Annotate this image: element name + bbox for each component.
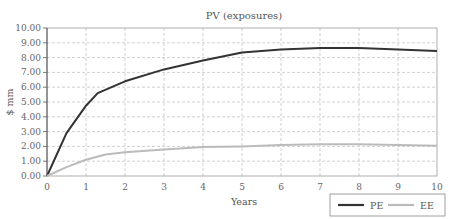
y-tick-label: 2.00 (21, 141, 41, 151)
x-tick-label: 9 (395, 182, 401, 192)
y-tick-label: 7.00 (21, 67, 41, 77)
y-tick-label: 6.00 (21, 82, 41, 92)
y-tick-label: 5.00 (21, 97, 41, 107)
y-tick-label: 8.00 (21, 53, 41, 63)
legend-label-ee: EE (420, 200, 434, 211)
x-tick-label: 6 (278, 182, 284, 192)
chart-title: PV (exposures) (206, 10, 282, 21)
series-lines (47, 48, 437, 176)
y-tick-label: 0.00 (21, 171, 41, 181)
y-tick-label: 10.00 (15, 23, 41, 33)
x-tick-label: 10 (431, 182, 443, 192)
x-tick-label: 2 (122, 182, 128, 192)
legend-label-pe: PE (370, 200, 383, 211)
x-tick-label: 7 (317, 182, 323, 192)
y-tick-label: 9.00 (21, 38, 41, 48)
x-tick-label: 3 (161, 182, 167, 192)
x-axis-ticks: 012345678910 (44, 182, 443, 192)
x-tick-label: 1 (83, 182, 89, 192)
series-line-pe (47, 48, 437, 176)
y-tick-label: 3.00 (21, 127, 41, 137)
y-axis-label: $ mm (4, 88, 15, 115)
exposure-chart: PV (exposures) 0.001.002.003.004.005.006… (0, 0, 452, 219)
x-tick-label: 8 (356, 182, 362, 192)
y-tick-label: 4.00 (21, 112, 41, 122)
x-tick-label: 0 (44, 182, 50, 192)
x-tick-label: 4 (200, 182, 206, 192)
legend: PE EE (330, 194, 445, 216)
y-axis-ticks: 0.001.002.003.004.005.006.007.008.009.00… (15, 23, 47, 181)
x-tick-label: 5 (239, 182, 245, 192)
x-axis-label: Years (230, 196, 257, 207)
y-tick-label: 1.00 (21, 156, 41, 166)
